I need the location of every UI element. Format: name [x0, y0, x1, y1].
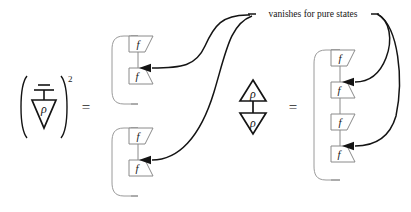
rho-state-middle: ρ	[240, 80, 266, 101]
rho-effect-left: ρ	[32, 100, 56, 128]
rho-effect-middle: ρ	[240, 113, 266, 134]
rho-label: ρ	[40, 102, 47, 116]
left-term-group: ρ 2	[21, 74, 73, 138]
annotation-label: vanishes for pure states	[269, 9, 358, 19]
paren-close-icon	[61, 76, 67, 138]
annotation-leader-left-lower	[139, 16, 252, 164]
right-expansion-group: f f f f	[314, 50, 355, 180]
equals-sign-1: =	[82, 99, 90, 115]
paren-open-icon	[21, 76, 27, 138]
equals-sign-2: =	[289, 99, 297, 115]
rho-label-top: ρ	[249, 87, 256, 101]
rho-label-bottom: ρ	[249, 116, 256, 130]
exponent-label: 2	[68, 74, 73, 84]
f-box-u1: f	[129, 36, 153, 52]
middle-term-group: ρ ρ	[240, 80, 266, 134]
discard-icon	[34, 85, 54, 100]
annotation-leader-left-upper	[139, 15, 250, 72]
f-box-l1: f	[129, 128, 153, 144]
f-box-r3: f	[331, 114, 355, 130]
diagram-canvas: ρ 2 = f f	[0, 0, 411, 212]
equation-figure: ρ 2 = f f	[0, 0, 411, 212]
f-box-r1: f	[331, 50, 355, 66]
